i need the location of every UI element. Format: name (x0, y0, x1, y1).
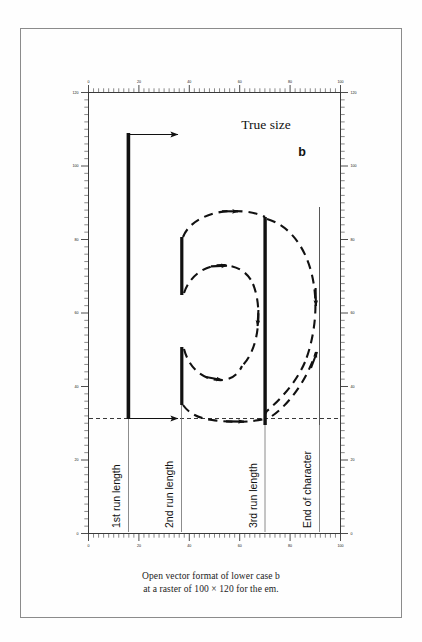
caption-line-2: at a raster of 100 × 120 for the em. (20, 583, 402, 596)
stem-2nd-run-upper (180, 237, 183, 295)
ruler-top-ticks (89, 85, 341, 93)
y-tick-label: 40 (351, 385, 355, 389)
x-tick-label: 100 (338, 544, 344, 548)
x-tick-label: 20 (137, 544, 141, 548)
ruler-left-ticks (81, 93, 89, 534)
run-arrows (129, 135, 178, 419)
arc-inner-right (242, 284, 258, 366)
y-tick-label: 40 (75, 385, 79, 389)
glyph-strokes (127, 133, 320, 425)
arrow-inner-right (258, 310, 259, 326)
arc-outer-top (183, 211, 265, 237)
label-2nd-run-length: 2nd run length (163, 461, 175, 528)
glyph-sample-b: b (298, 145, 306, 159)
arc-inner-bottom (184, 349, 242, 380)
arc-direction-arrows (206, 211, 317, 421)
stem-1st-run (127, 133, 131, 419)
y-tick-label: 120 (351, 91, 357, 95)
caption-line-1: Open vector format of lower case b (20, 570, 402, 583)
y-tick-label: 80 (351, 238, 355, 242)
x-tick-label: 80 (288, 80, 292, 84)
x-tick-label: 40 (187, 80, 191, 84)
y-tick-label: 60 (351, 311, 355, 315)
y-tick-label: 80 (75, 238, 79, 242)
y-tick-label: 0 (351, 532, 353, 536)
page-canvas: 0020204040606080801001000020204040606080… (0, 0, 422, 642)
stem-3rd-run (263, 217, 266, 425)
x-tick-label: 100 (338, 80, 344, 84)
y-tick-label: 100 (351, 164, 357, 168)
x-tick-label: 80 (288, 544, 292, 548)
arrow-inner-bottom (206, 377, 222, 380)
bowl-outlines (183, 211, 316, 422)
arc-outer-bottom (183, 405, 264, 422)
x-tick-label: 60 (238, 544, 242, 548)
y-tick-label: 60 (75, 311, 79, 315)
true-size-label: True size (241, 117, 290, 132)
ruler-right-ticks (341, 93, 349, 534)
ruler-bottom-ticks (89, 534, 341, 542)
arc-outer-right (267, 219, 315, 362)
label-end-of-character: End of character (301, 450, 313, 528)
arc-return-to-origin (272, 352, 316, 416)
x-tick-label: 20 (137, 80, 141, 84)
label-3rd-run-length: 3rd run length (247, 463, 259, 528)
y-tick-label: 20 (351, 458, 355, 462)
x-tick-label: 60 (238, 80, 242, 84)
arrow-return-to-origin (311, 352, 317, 368)
stem-2nd-run-lower (180, 347, 183, 405)
x-tick-label: 0 (88, 80, 90, 84)
y-tick-label: 20 (75, 458, 79, 462)
y-tick-label: 120 (73, 91, 79, 95)
arc-inner-top (184, 265, 253, 293)
arrow-inner-top (211, 266, 227, 267)
x-tick-label: 40 (187, 544, 191, 548)
vector-glyph-diagram: 0020204040606080801001000020204040606080… (0, 0, 422, 642)
figure-caption: Open vector format of lower case b at a … (20, 570, 402, 596)
label-1st-run-length: 1st run length (110, 464, 122, 528)
label-guide-lines (129, 405, 320, 532)
y-tick-label: 100 (73, 164, 79, 168)
y-tick-label: 0 (77, 532, 79, 536)
x-tick-label: 0 (88, 544, 90, 548)
